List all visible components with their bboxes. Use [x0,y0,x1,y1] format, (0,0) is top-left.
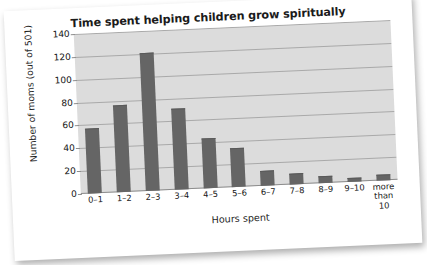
y-axis-tick-label: 100 [50,75,72,85]
bar[interactable] [230,148,246,187]
bar[interactable] [347,177,361,182]
screenshot-root: Time spent helping children grow spiritu… [0,0,427,265]
y-axis-tick-label: 0 [55,190,77,200]
bar[interactable] [140,52,160,191]
bar-series [74,20,398,194]
bar[interactable] [318,176,332,183]
chart-paper-sheet: Time spent helping children grow spiritu… [4,0,423,261]
y-axis-tick-label: 120 [49,53,71,63]
bar[interactable] [85,128,102,194]
bar[interactable] [171,108,189,190]
y-axis-tick-label: 140 [48,30,70,40]
y-axis-title: Number of moms (out of 501) [22,18,40,168]
bar-slot [362,20,398,181]
y-axis-tick-label: 20 [54,167,76,177]
plot-wrapper: 020406080100120140 [48,20,398,195]
y-axis-tick-label: 40 [53,144,75,154]
chart-figure: Time spent helping children grow spiritu… [4,0,423,261]
bar[interactable] [260,171,275,186]
bar[interactable] [113,105,131,192]
y-axis-tick-label: 60 [52,121,74,131]
bar[interactable] [376,175,390,181]
y-axis-tick-label: 80 [51,98,73,108]
bar[interactable] [201,138,217,189]
bar[interactable] [289,173,303,185]
